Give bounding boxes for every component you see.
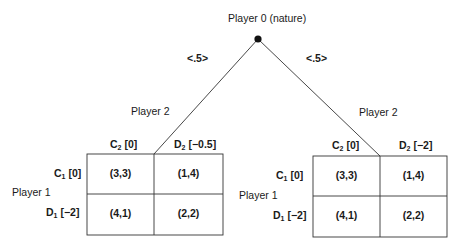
right-cell-cc: (3,3)	[313, 169, 380, 181]
left-cell-dc: (4,1)	[87, 207, 154, 219]
right-player1-label: Player 1	[239, 189, 278, 201]
right-row-header-c1: C1 [0]	[276, 169, 303, 182]
left-cell-dd: (2,2)	[154, 207, 223, 219]
left-row-header-d1: D1 [−2]	[46, 206, 79, 219]
right-col-header-c2: C2 [0]	[332, 139, 359, 152]
right-cell-dc: (4,1)	[313, 209, 380, 221]
right-player2-label: Player 2	[359, 106, 398, 118]
right-cell-dd: (2,2)	[380, 209, 447, 221]
left-cell-cc: (3,3)	[87, 167, 154, 179]
left-col-header-d2: D2 [−0.5]	[174, 138, 216, 151]
nature-node-icon	[254, 35, 261, 42]
left-player2-label: Player 2	[131, 105, 170, 117]
left-col-header-c2: C2 [0]	[110, 138, 137, 151]
left-probability: <.5>	[187, 52, 208, 64]
right-probability: <.5>	[306, 52, 327, 64]
right-row-header-d1: D1 [−2]	[273, 209, 306, 222]
nature-label: Player 0 (nature)	[228, 12, 306, 24]
left-cell-cd: (1,4)	[154, 167, 223, 179]
right-cell-cd: (1,4)	[380, 169, 447, 181]
left-player1-label: Player 1	[12, 186, 51, 198]
left-row-header-c1: C1 [0]	[54, 167, 81, 180]
right-col-header-d2: D2 [−2]	[399, 139, 432, 152]
